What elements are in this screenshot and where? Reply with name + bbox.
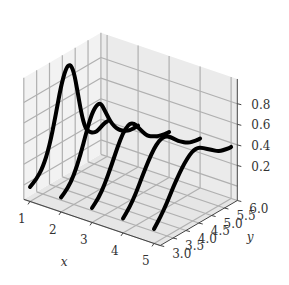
z-tick — [237, 124, 241, 125]
y-tick — [160, 246, 164, 247]
y-tick — [199, 223, 203, 224]
x-tick-label: 5 — [142, 254, 150, 268]
x-tick — [90, 222, 92, 225]
x-tick-label: 2 — [49, 223, 57, 237]
y-axis-title: y — [246, 230, 254, 244]
y-tick — [173, 238, 177, 239]
x-tick-label: 4 — [111, 244, 119, 258]
y-tick — [237, 201, 241, 202]
x-tick-label: 1 — [18, 212, 26, 226]
z-tick — [237, 104, 241, 105]
y-tick — [224, 208, 228, 209]
x-tick — [28, 201, 30, 204]
x-tick — [152, 243, 154, 246]
x-axis-title: x — [61, 255, 68, 269]
x-tick — [59, 212, 61, 215]
y-tick — [186, 231, 190, 232]
z-tick-label: 0.2 — [251, 160, 270, 174]
x-tick — [121, 233, 123, 236]
z-tick-label: 0.4 — [251, 139, 270, 153]
z-tick — [237, 166, 241, 167]
y-tick-label: 6.0 — [249, 202, 268, 216]
y-tick — [212, 216, 216, 217]
z-tick — [237, 145, 241, 146]
3d-line-chart: 123453.03.54.04.55.05.56.00.20.40.60.8xy — [0, 0, 289, 285]
z-tick-label: 0.6 — [251, 118, 270, 132]
z-tick-label: 0.8 — [251, 98, 270, 112]
x-tick-label: 3 — [80, 233, 88, 247]
chart-container: 123453.03.54.04.55.05.56.00.20.40.60.8xy — [0, 0, 289, 285]
